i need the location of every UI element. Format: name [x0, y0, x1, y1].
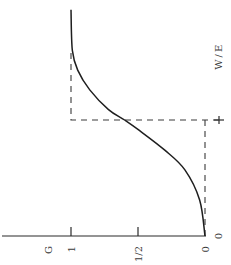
g-tick-label: 0 [200, 246, 211, 252]
we-axis-tick-labels: 0 [213, 233, 224, 239]
smooth-curve-line [71, 10, 205, 236]
we-axis-label: W/E [213, 43, 224, 70]
g-axis-tick-labels: 01/21 [66, 246, 211, 262]
g-axis-ticks [71, 227, 138, 236]
chart: 01/21 G 0 W/E [0, 0, 231, 265]
g-axis-label: G [43, 246, 54, 254]
g-tick-label: 1/2 [133, 246, 144, 262]
step-function-dashed-line [71, 50, 219, 236]
we-tick-label: 0 [213, 233, 224, 239]
g-tick-label: 1 [66, 246, 77, 252]
